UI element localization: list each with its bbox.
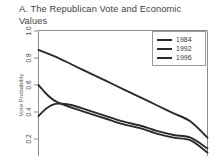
series-line-1996	[39, 104, 208, 149]
series-line-1992	[39, 85, 208, 153]
y-tick-labels: 1.0 0.8 0.6 0.4 0.2	[25, 26, 32, 143]
legend-line-icon	[157, 57, 172, 59]
legend-item-label: 1984	[176, 35, 192, 44]
y-tick-label: 0.4	[25, 107, 32, 116]
y-axis-title: Vote Probability	[17, 73, 24, 117]
chart-svg: 1.0 0.8 0.6 0.4 0.2 Vote Probability	[0, 0, 217, 156]
legend-item: 1992	[157, 44, 202, 53]
figure-panel: A. The Republican Vote and Economic Valu…	[0, 0, 217, 156]
y-tick-label: 0.6	[25, 80, 32, 89]
chart-legend: 1984 1992 1996	[152, 31, 206, 66]
y-tick-label: 0.8	[25, 53, 32, 62]
plot-area: 1.0 0.8 0.6 0.4 0.2 Vote Probability	[0, 0, 217, 156]
legend-line-icon	[157, 39, 172, 41]
legend-line-icon	[157, 48, 172, 50]
y-tick-label: 0.2	[25, 134, 32, 143]
y-tick-label: 1.0	[25, 26, 32, 35]
legend-item: 1984	[157, 35, 202, 44]
legend-item-label: 1996	[176, 53, 192, 62]
legend-item: 1996	[157, 53, 202, 62]
legend-item-label: 1992	[176, 44, 192, 53]
